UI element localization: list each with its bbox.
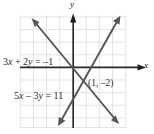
eq1-x-variable: x xyxy=(8,56,12,67)
equation-label-1: 3x + 2y = –1 xyxy=(3,56,53,67)
intersection-point-label: (1, –2) xyxy=(88,78,113,88)
eq2-x-variable: x xyxy=(19,90,23,101)
equation-label-2: 5x – 3y = 11 xyxy=(14,90,63,101)
y-axis-label: y xyxy=(70,0,74,9)
eq2-operator: – xyxy=(26,90,31,101)
graph-canvas xyxy=(0,0,154,134)
eq1-operator: + xyxy=(15,56,21,67)
line-5x-minus-3y-equals-11 xyxy=(58,16,120,126)
coordinate-graph-figure: y x 3x + 2y = –1 5x – 3y = 11 (1, –2) xyxy=(0,0,154,134)
eq2-y-variable: y xyxy=(38,90,42,101)
eq2-equals-sign: = xyxy=(45,90,51,101)
eq1-y-variable: y xyxy=(28,56,32,67)
eq2-right-hand-side: 11 xyxy=(54,90,64,101)
y-axis-arrowhead xyxy=(70,14,76,23)
eq1-right-hand-side: –1 xyxy=(43,56,53,67)
line-3x-plus-2y-equals-neg1 xyxy=(32,18,120,124)
eq1-equals-sign: = xyxy=(35,56,41,67)
axes xyxy=(20,14,146,129)
x-axis-label: x xyxy=(144,60,148,70)
